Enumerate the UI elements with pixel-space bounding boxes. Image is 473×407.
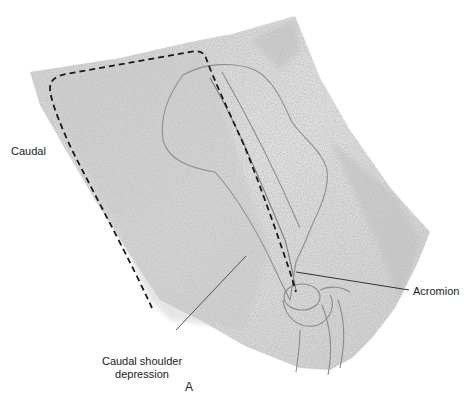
shoulder-illustration — [0, 0, 473, 407]
acromion-label: Acromion — [413, 285, 459, 298]
depression-label-line2: depression — [84, 368, 200, 381]
depression-label-line1: Caudal shoulder — [84, 355, 200, 368]
panel-letter: A — [185, 381, 193, 394]
caudal-shoulder-depression-label: Caudal shoulder depression — [84, 355, 200, 381]
caudal-label: Caudal — [11, 145, 46, 158]
